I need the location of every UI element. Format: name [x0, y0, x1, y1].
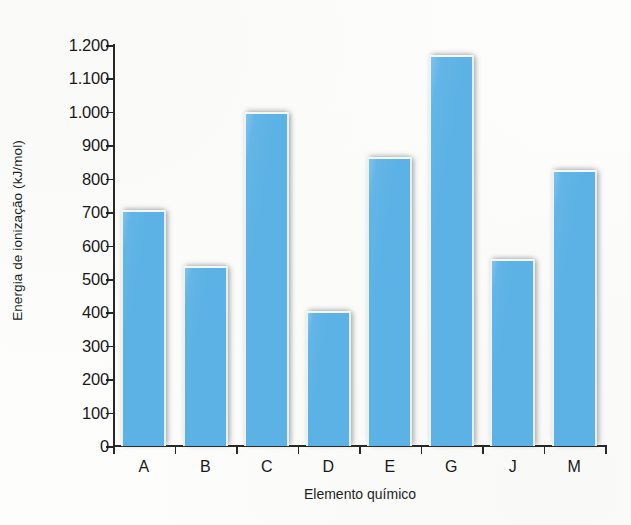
x-tick-mark [421, 446, 423, 454]
bar-c [244, 112, 289, 446]
y-axis-title-container: Energia de ionização (kJ/mol) [0, 0, 34, 460]
x-tick-mark [482, 446, 484, 454]
x-tick-mark [544, 446, 546, 454]
bar-highlight [246, 114, 287, 446]
x-tick-label-d: D [322, 458, 334, 476]
plot-area: 01002003004005006007008009001.0001.1001.… [113, 45, 605, 446]
x-tick-mark [359, 446, 361, 454]
bar-a [121, 210, 166, 446]
y-tick-label: 200 [82, 370, 109, 389]
y-tick-label: 300 [82, 336, 109, 355]
x-tick-label-a: A [138, 458, 149, 476]
bar-highlight [185, 268, 226, 446]
bar-d [306, 311, 351, 446]
y-tick-label: 1.200 [69, 36, 109, 55]
y-tick-label: 0 [100, 437, 109, 456]
y-tick-label: 600 [82, 236, 109, 255]
y-tick-label: 1.100 [69, 69, 109, 88]
x-tick-mark [236, 446, 238, 454]
bar-e [367, 157, 412, 446]
bar-g [429, 55, 474, 446]
x-tick-label-g: G [445, 458, 457, 476]
y-tick-label: 700 [82, 203, 109, 222]
bar-highlight [554, 172, 595, 446]
x-axis-title: Elemento químico [113, 486, 607, 502]
y-tick-label: 500 [82, 269, 109, 288]
y-tick-label: 100 [82, 403, 109, 422]
x-tick-mark [605, 446, 607, 454]
x-tick-mark [298, 446, 300, 454]
y-tick-label: 800 [82, 169, 109, 188]
x-tick-label-e: E [384, 458, 395, 476]
y-tick-label: 900 [82, 136, 109, 155]
x-tick-label-j: J [509, 458, 517, 476]
bar-highlight [369, 159, 410, 446]
bar-b [183, 266, 228, 446]
x-tick-label-m: M [568, 458, 581, 476]
x-tick-label-b: B [200, 458, 211, 476]
x-tick-mark [175, 446, 177, 454]
chart-page: Energia de ionização (kJ/mol) 0100200300… [0, 0, 631, 525]
x-tick-label-c: C [261, 458, 273, 476]
y-axis-title: Energia de ionização (kJ/mol) [10, 140, 25, 321]
bar-highlight [492, 261, 533, 446]
bar-highlight [123, 212, 164, 446]
y-tick-label: 1.000 [69, 102, 109, 121]
bar-m [552, 170, 597, 446]
x-tick-mark [113, 446, 115, 454]
bar-highlight [431, 57, 472, 446]
bar-j [490, 259, 535, 446]
bar-highlight [308, 313, 349, 446]
y-tick-label: 400 [82, 303, 109, 322]
